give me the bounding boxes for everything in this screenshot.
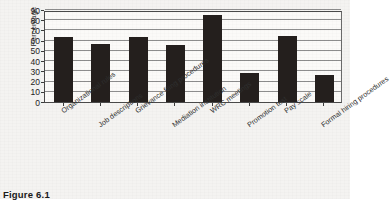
bar (278, 36, 297, 102)
x-axis-tick-mark (174, 103, 175, 106)
y-axis-tick-label: 20 (31, 78, 40, 87)
gridline (45, 19, 341, 20)
y-axis-tick-label: 80 (31, 17, 40, 26)
y-axis-tick-label: 60 (31, 37, 40, 46)
x-axis-tick-mark (249, 103, 250, 106)
y-axis-tick-labels: 0102030405060708090 (16, 11, 42, 103)
y-axis-tick-label: 70 (31, 27, 40, 36)
x-axis-category-labels: Organizational rulesJob descriptionsGrie… (44, 104, 342, 188)
x-axis-tick-mark (100, 103, 101, 106)
y-axis-tick-label: 90 (31, 7, 40, 16)
bar (54, 37, 73, 102)
y-axis-tick-label: 50 (31, 48, 40, 57)
y-axis-tick-label: 0 (35, 99, 40, 108)
x-axis-tick-mark (323, 103, 324, 106)
gridline (45, 29, 341, 30)
bar (315, 75, 334, 102)
figure-caption: Figure 6.1 (3, 189, 50, 200)
y-axis-tick-label: 30 (31, 68, 40, 77)
y-axis-tick-label: 40 (31, 58, 40, 67)
y-axis-tick-label: 10 (31, 89, 40, 98)
gridline (45, 9, 341, 10)
